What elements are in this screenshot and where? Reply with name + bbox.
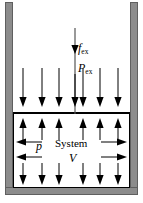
label-p: p bbox=[36, 140, 42, 152]
label-p-ex-subscript: ex bbox=[85, 67, 92, 76]
external-pressure-arrows bbox=[18, 68, 124, 108]
label-p-ex: Pex bbox=[78, 62, 92, 74]
cylinder-wall-bottom bbox=[5, 187, 138, 195]
label-f-ex-subscript: ex bbox=[81, 47, 88, 56]
cylinder-wall-right bbox=[130, 2, 138, 195]
label-system: System bbox=[55, 138, 87, 149]
label-volume: V bbox=[69, 152, 76, 164]
label-f-ex: fex bbox=[78, 42, 88, 54]
system-pressure-right-arrows bbox=[101, 138, 127, 162]
system-pressure-down-arrows bbox=[18, 163, 124, 185]
piston-cylinder-figure: fex Pex p System V bbox=[0, 0, 143, 203]
cylinder-wall-left bbox=[5, 2, 13, 195]
